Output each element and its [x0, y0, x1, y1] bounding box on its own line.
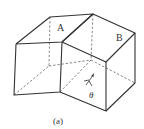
hidden-edge-back-vertical-left — [49, 17, 50, 66]
face-a-outline — [16, 14, 93, 44]
angle-tick-c — [89, 81, 92, 86]
hidden-edge-bottom-back-left — [49, 60, 91, 66]
hidden-edge-back-vertical-mid — [91, 14, 93, 60]
angle-marker — [84, 73, 94, 86]
hidden-edge-bottom-diag-right — [60, 60, 91, 92]
polyhedron-diagram: A B θ (a) — [0, 0, 144, 129]
face-b-outline — [62, 14, 135, 62]
figure-caption: (a) — [53, 116, 63, 126]
hidden-edge-bottom-back-right — [91, 60, 135, 83]
face-b-label: B — [116, 32, 123, 43]
hidden-edges — [14, 14, 135, 95]
angle-tick-b — [86, 81, 89, 85]
face-a-label: A — [57, 22, 65, 33]
left-front-face — [14, 42, 62, 95]
right-side-face — [106, 33, 135, 111]
hidden-edge-bottom-diag-left — [14, 66, 49, 95]
angle-theta-label: θ — [89, 90, 94, 100]
right-front-face — [60, 62, 106, 111]
angle-tick-a — [84, 80, 89, 81]
